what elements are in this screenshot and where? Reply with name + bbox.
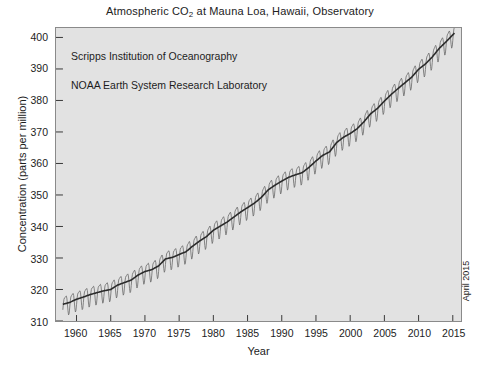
annotation-scripps: Scripps Institution of Oceanography xyxy=(71,50,237,62)
chart-title-prefix: Atmospheric CO xyxy=(106,5,189,17)
monthly-co2-line xyxy=(63,28,455,315)
y-tick-label: 400 xyxy=(2,32,48,43)
plot-area xyxy=(55,27,462,322)
annotation-noaa: NOAA Earth System Research Laboratory xyxy=(71,79,267,91)
chart-figure: Atmospheric CO2 at Mauna Loa, Hawaii, Ob… xyxy=(0,0,480,366)
chart-title-suffix: at Mauna Loa, Hawaii, Observatory xyxy=(193,5,374,17)
trend-co2-line xyxy=(63,33,455,304)
y-tick-label: 320 xyxy=(2,285,48,296)
y-axis-title: Concentration (parts per million) xyxy=(16,74,28,274)
chart-title: Atmospheric CO2 at Mauna Loa, Hawaii, Ob… xyxy=(0,5,480,17)
y-tick-label: 310 xyxy=(2,317,48,328)
chart-title-subscript: 2 xyxy=(189,10,194,19)
y-tick-label: 390 xyxy=(2,63,48,74)
date-stamp-note: April 2015 xyxy=(461,221,471,341)
x-axis-title: Year xyxy=(55,345,462,357)
plot-svg xyxy=(56,28,461,321)
